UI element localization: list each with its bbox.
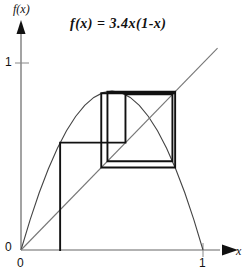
cobweb-group — [60, 92, 175, 250]
plot-canvas — [0, 0, 243, 275]
curves-group — [21, 48, 218, 250]
y-axis-tick-label-0: 0 — [5, 240, 12, 254]
identity-line — [21, 48, 218, 250]
x-axis-label: x — [236, 244, 241, 259]
y-axis-arrowhead — [17, 20, 26, 34]
cobweb-iteration-path — [60, 92, 175, 250]
figure-title: f(x) = 3.4x(1-x) — [70, 16, 166, 32]
cobweb-plot-figure: f(x) = 3.4x(1-x) f(x) x 1 0 0 1 — [0, 0, 243, 275]
y-axis-label: f(x) — [13, 2, 30, 17]
x-axis-tick-label-1: 1 — [199, 256, 206, 270]
x-axis-tick-label-0: 0 — [17, 256, 24, 270]
y-axis-tick-label-1: 1 — [5, 55, 12, 69]
